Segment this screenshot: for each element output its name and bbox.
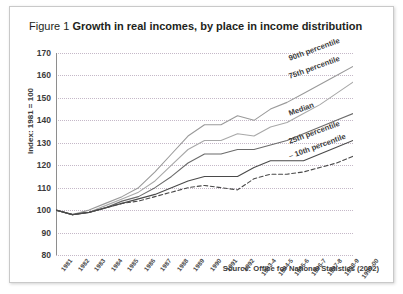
figure-title-text: Growth in real incomes, by place in inco…: [72, 20, 362, 32]
x-axis-tick-label: 1988: [175, 257, 189, 272]
y-axis-tick-label: 130: [37, 138, 51, 148]
y-axis-tick-label: 150: [37, 93, 51, 103]
y-axis-tick-label: 110: [37, 183, 51, 193]
figure-title: Figure 1 Growth in real incomes, by plac…: [29, 20, 362, 32]
x-axis-tick-label: 1984: [109, 257, 123, 272]
y-axis-tick-label: 90: [42, 228, 51, 238]
y-axis-tick-label: 80: [42, 250, 51, 260]
y-axis-tick-label: 170: [37, 48, 51, 58]
figure-number: Figure 1: [29, 20, 69, 32]
x-axis-tick-label: 1981: [59, 257, 73, 272]
y-axis-tick-label: 160: [37, 70, 51, 80]
x-axis-tick-label: 1989: [191, 257, 205, 272]
x-axis-tick-label: 1985: [125, 257, 139, 272]
y-axis-tick-label: 140: [37, 115, 51, 125]
y-axis-tick-label: 100: [37, 205, 51, 215]
x-axis-tick-label: 1982: [76, 257, 90, 272]
plot-area: 8090100110120130140150160170 19811982198…: [56, 53, 353, 255]
y-axis-label: Index: 1981 = 100: [26, 88, 35, 154]
x-axis-tick-label: 1986: [142, 257, 156, 272]
x-axis-tick-label: 1990: [208, 257, 222, 272]
x-axis-tick-label: 1983: [92, 257, 106, 272]
source-note: Source: Office for National Statistics (…: [223, 264, 379, 273]
x-axis-tick-label: 1987: [158, 257, 172, 272]
figure-container: Figure 1 Growth in real incomes, by plac…: [9, 6, 394, 283]
y-axis-tick-label: 120: [37, 160, 51, 170]
